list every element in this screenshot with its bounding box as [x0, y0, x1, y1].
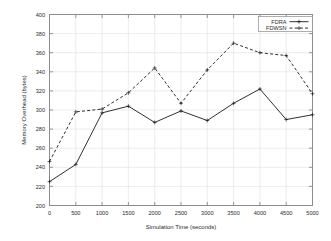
legend-label-fdra: FDRA	[271, 19, 286, 25]
y-tick-label: 200	[36, 203, 45, 209]
y-axis-title: Memory Overhead (bytes)	[21, 75, 27, 145]
x-tick-label: 2500	[175, 210, 187, 216]
y-tick-label: 240	[36, 164, 45, 170]
x-tick-label: 1500	[122, 210, 134, 216]
x-tick-label: 4000	[254, 210, 266, 216]
y-tick-label: 360	[36, 50, 45, 56]
x-axis-tick-labels: 0500100015002000250030003500400045005000	[48, 210, 319, 216]
x-axis-title: Simulation Time (seconds)	[146, 224, 217, 230]
memory-overhead-line-chart: 200220240260280300320340360380400 050010…	[0, 0, 331, 241]
x-tick-label: 3000	[201, 210, 213, 216]
x-tick-label: 0	[48, 210, 51, 216]
chart-container: 200220240260280300320340360380400 050010…	[0, 0, 331, 241]
x-tick-label: 3500	[227, 210, 239, 216]
x-tick-label: 1000	[96, 210, 108, 216]
x-tick-label: 4500	[280, 210, 292, 216]
y-tick-label: 300	[36, 107, 45, 113]
x-tick-label: 2000	[148, 210, 160, 216]
chart-legend: FDRAFDWSN	[259, 17, 313, 32]
y-tick-label: 400	[36, 12, 45, 18]
y-tick-label: 260	[36, 145, 45, 151]
y-tick-label: 380	[36, 31, 45, 37]
x-tick-label: 5000	[306, 210, 318, 216]
y-tick-label: 340	[36, 69, 45, 75]
y-tick-label: 220	[36, 184, 45, 190]
x-tick-label: 500	[71, 210, 80, 216]
y-tick-label: 280	[36, 126, 45, 132]
legend-label-fdwsn: FDWSN	[266, 25, 287, 31]
y-tick-label: 320	[36, 88, 45, 94]
y-axis-tick-labels: 200220240260280300320340360380400	[36, 12, 45, 209]
